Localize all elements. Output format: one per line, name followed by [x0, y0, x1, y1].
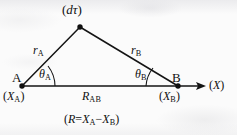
label-distance-rA: rA [33, 44, 44, 56]
segment-rB [80, 27, 178, 86]
label-axis-x: (X) [209, 79, 224, 91]
label-angle-thetaA: θA [39, 68, 51, 80]
label-angle-thetaB: θB [135, 68, 147, 80]
segment-rA [22, 27, 80, 86]
vertex-dot-apex [77, 24, 82, 29]
label-distance-rB: rB [131, 44, 141, 56]
label-coordinate-xa: (XA) [3, 90, 24, 102]
figure-canvas: (dτ) rA rB θA θB A B (XA) (XB) RAB (X) (… [0, 0, 237, 135]
label-vertex-a: A [12, 71, 21, 84]
label-internuclear-distance: RAB [82, 90, 101, 102]
label-volume-element: (dτ) [62, 3, 82, 16]
label-coordinate-xb: (XB) [159, 90, 180, 102]
label-formula-r-definition: (R=XA−XB) [64, 113, 119, 125]
symbol-dtau: dτ [66, 2, 77, 17]
label-vertex-b: B [172, 71, 181, 84]
